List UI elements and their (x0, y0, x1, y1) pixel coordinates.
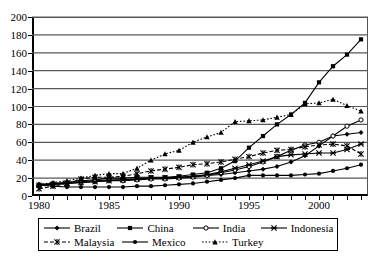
legend-item-brazil[interactable]: Brazil (42, 221, 115, 235)
data-point-marker (344, 103, 349, 108)
data-point-marker (121, 185, 125, 189)
legend-item-turkey[interactable]: Turkey (200, 235, 272, 249)
legend-item-label: India (223, 222, 246, 234)
data-point-marker (358, 151, 363, 157)
data-point-marker (359, 37, 363, 41)
data-point-marker (345, 124, 349, 128)
data-point-marker (289, 173, 293, 177)
legend-item-indonesia[interactable]: Indonesia (259, 221, 334, 235)
data-point-marker (316, 150, 322, 155)
data-point-marker (330, 150, 336, 155)
data-point-marker (93, 185, 97, 189)
data-point-marker (331, 134, 335, 138)
data-point-marker (107, 185, 111, 189)
data-point-marker (275, 122, 279, 126)
series-india (37, 118, 363, 188)
legend-item-label: Mexico (152, 236, 186, 248)
data-point-marker (317, 172, 321, 176)
chart-legend: BrazilChinaIndiaIndonesia MalaysiaMexico… (38, 218, 338, 251)
y-tick-label: 200 (11, 12, 28, 23)
legend-item-india[interactable]: India (191, 221, 259, 235)
y-axis-labels: 020406080100120140160180200 (0, 0, 30, 213)
y-tick-label: 120 (11, 83, 28, 94)
data-point-marker (261, 134, 265, 138)
data-point-marker (275, 164, 280, 169)
legend-row: MalaysiaMexicoTurkey (42, 235, 334, 249)
legend-item-malaysia[interactable]: Malaysia (42, 235, 120, 249)
y-tick-label: 60 (16, 137, 27, 148)
data-point-marker (128, 226, 132, 230)
legend-item-label: Indonesia (291, 222, 334, 234)
data-point-marker (79, 185, 83, 189)
series-lines (32, 17, 368, 196)
data-point-marker (358, 141, 364, 146)
data-point-marker (345, 166, 349, 170)
legend-item-mexico[interactable]: Mexico (120, 235, 200, 249)
x-tick-label: 1990 (168, 199, 190, 211)
data-point-marker (331, 64, 335, 68)
y-tick-label: 20 (16, 173, 27, 184)
data-point-marker (344, 143, 349, 149)
data-point-marker (134, 166, 139, 171)
data-point-marker (204, 134, 209, 139)
data-point-marker (55, 226, 60, 231)
data-point-marker (191, 181, 195, 185)
data-point-marker (65, 185, 69, 189)
data-point-marker (176, 148, 181, 153)
data-point-marker (177, 182, 181, 186)
data-point-marker (330, 97, 335, 102)
legend-marker-open-circle-icon (191, 222, 221, 234)
x-tick-label: 1980 (28, 199, 50, 211)
data-point-marker (163, 183, 167, 187)
y-tick-label: 40 (16, 155, 27, 166)
legend-marker-asterisk-icon (42, 236, 72, 248)
data-point-marker (288, 152, 294, 157)
plot-area (32, 17, 368, 196)
legend-item-label: China (147, 222, 173, 234)
data-point-marker (275, 173, 279, 177)
data-point-marker (219, 178, 223, 182)
x-tick-label: 2000 (308, 199, 330, 211)
data-point-marker (331, 169, 335, 173)
data-point-marker (205, 180, 209, 184)
data-point-marker (345, 52, 349, 56)
legend-item-label: Malaysia (74, 236, 114, 248)
data-point-marker (135, 184, 139, 188)
legend-marker-square-icon (115, 222, 145, 234)
data-point-marker (289, 159, 294, 164)
series-china (37, 37, 363, 187)
legend-marker-diamond-icon (42, 222, 72, 234)
legend-item-label: Turkey (232, 236, 263, 248)
data-point-marker (317, 80, 321, 84)
data-point-marker (271, 225, 277, 230)
data-point-marker (359, 130, 364, 135)
data-point-marker (261, 167, 266, 172)
data-point-marker (359, 163, 363, 167)
data-point-marker (247, 173, 251, 177)
data-point-marker (133, 240, 137, 244)
legend-row: BrazilChinaIndiaIndonesia (42, 221, 334, 235)
x-axis-labels: 19801985199019952000 (0, 199, 376, 215)
series-brazil (37, 130, 364, 187)
legend-item-china[interactable]: China (115, 221, 190, 235)
y-tick-label: 140 (11, 65, 28, 76)
y-tick-label: 160 (11, 47, 28, 58)
data-point-marker (303, 172, 307, 176)
data-point-marker (359, 118, 363, 122)
legend-marker-triangle-icon (200, 236, 230, 248)
data-point-marker (149, 184, 153, 188)
data-point-marker (261, 173, 265, 177)
legend-item-label: Brazil (74, 222, 101, 234)
data-point-marker (148, 158, 153, 163)
legend-marker-star-x-icon (259, 222, 289, 234)
series-line (39, 99, 361, 184)
series-line (39, 39, 361, 185)
data-point-marker (247, 168, 252, 173)
x-tick-label: 1995 (238, 199, 260, 211)
data-point-marker (204, 226, 208, 230)
y-tick-label: 180 (11, 29, 28, 40)
y-tick-label: 100 (11, 101, 28, 112)
x-tick-label: 1985 (98, 199, 120, 211)
data-point-marker (233, 176, 237, 180)
data-point-marker (247, 146, 251, 150)
